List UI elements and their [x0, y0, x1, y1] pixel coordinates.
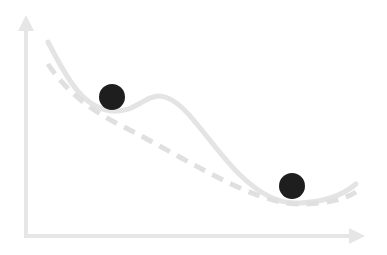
local-minimum-ball — [99, 84, 125, 110]
y-axis — [18, 15, 34, 236]
global-minimum-ball — [279, 173, 305, 199]
solid-loss-curve — [48, 42, 356, 203]
x-axis — [24, 228, 365, 244]
y-axis-arrowhead-icon — [18, 15, 34, 31]
x-axis-arrowhead-icon — [349, 228, 365, 244]
loss-landscape-diagram — [0, 0, 387, 255]
